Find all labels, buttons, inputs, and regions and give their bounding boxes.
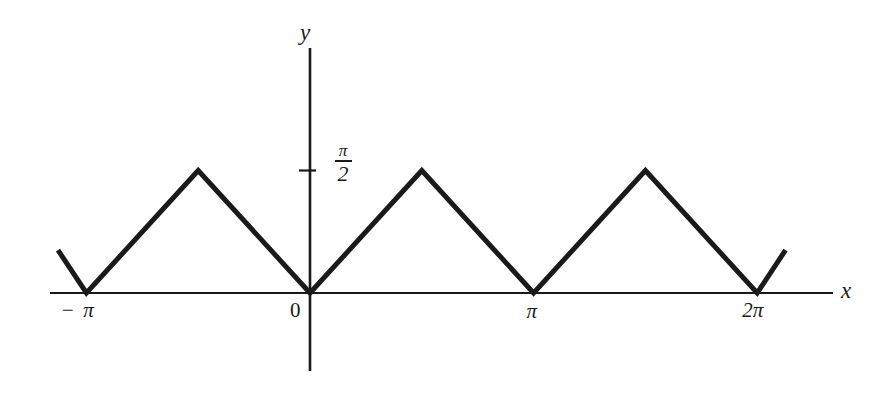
fraction-numerator: π xyxy=(326,142,360,160)
fraction-denominator: 2 xyxy=(326,162,360,185)
x-tick-label-pi: π xyxy=(527,301,538,322)
triangle-wave-figure: y x − π 0 π 2π π 2 xyxy=(0,0,883,402)
plot-canvas xyxy=(0,0,883,402)
x-tick-label-neg-pi: − π xyxy=(60,300,95,321)
x-tick-label-zero: 0 xyxy=(290,300,301,321)
triangle-wave-curve xyxy=(58,171,786,294)
y-tick-label-pi-over-2: π 2 xyxy=(326,142,360,184)
x-axis-label: x xyxy=(841,279,851,302)
y-axis-label: y xyxy=(300,21,310,44)
x-tick-label-2pi: 2π xyxy=(742,300,763,321)
